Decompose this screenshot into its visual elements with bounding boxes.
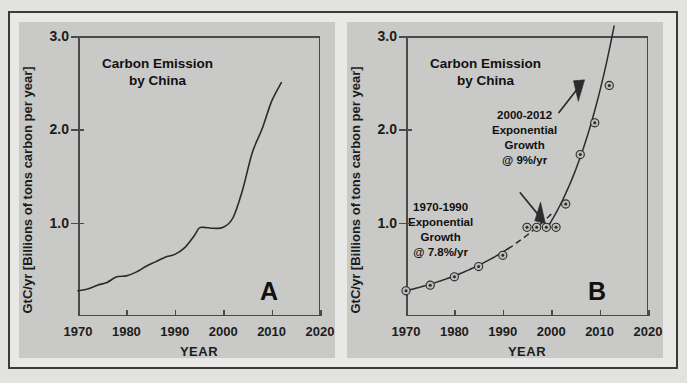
data-point-center-b [453,275,456,278]
data-point-center-b [526,226,529,229]
x-tick [503,310,505,316]
x-axis-title-a: YEAR [180,344,218,359]
data-point-center-b [477,265,480,268]
y-tick [71,36,78,38]
x-tick-label: 1990 [160,325,189,338]
early-exponential-fit-solid-b [406,249,508,291]
chart-panel-b: GtC/yr [Billions of tons carbon per year… [347,22,663,358]
y-tick [399,129,406,131]
x-tick [551,310,553,316]
data-point-center-b [535,226,538,229]
x-tick [272,310,274,316]
x-tick-label: 1970 [64,325,93,338]
y-tick-inner [78,129,84,131]
x-tick [648,310,650,316]
y-tick-inner [78,36,84,38]
x-tick [454,310,456,316]
x-tick [78,310,80,316]
plot-area-b: Carbon Emission by China 2000-2012 Expon… [406,36,648,316]
plot-area-a: Carbon Emission by China A 1.02.03.0 197… [78,36,320,316]
y-tick-label: 3.0 [378,29,397,43]
late-exponential-fit-b [546,26,614,229]
data-point-center-b [405,289,408,292]
chart-panel-a: GtC/yr [Billions of tons carbon per year… [19,22,335,358]
y-tick [399,36,406,38]
y-tick-inner [406,36,412,38]
data-point-center-b [608,84,611,87]
data-point-center-b [593,121,596,124]
x-tick [600,310,602,316]
y-axis-title-a: GtC/yr [Billions of tons carbon per year… [20,66,35,313]
y-axis-title-b: GtC/yr [Billions of tons carbon per year… [348,66,363,313]
data-point-center-b [579,153,582,156]
x-tick-label: 1980 [440,325,469,338]
data-point-center-b [555,226,558,229]
y-tick-label: 1.0 [50,216,69,230]
scanned-page-background: GtC/yr [Billions of tons carbon per year… [0,0,687,383]
x-tick [406,310,408,316]
x-tick-label: 1990 [488,325,517,338]
x-tick [320,310,322,316]
x-tick [126,310,128,316]
x-tick [175,310,177,316]
x-tick-label: 2020 [634,325,663,338]
y-tick-inner [78,223,84,225]
x-axis-title-b: YEAR [508,344,546,359]
y-tick [399,223,406,225]
data-curve-a [78,36,320,316]
y-tick-label: 2.0 [50,122,69,136]
data-point-center-b [501,254,504,257]
y-tick-inner [406,223,412,225]
x-tick-label: 2010 [257,325,286,338]
y-tick [71,129,78,131]
x-tick-label: 1970 [392,325,421,338]
x-tick-label: 1980 [112,325,141,338]
x-tick-label: 2010 [585,325,614,338]
y-tick [71,223,78,225]
page-caption-clipped [10,374,310,383]
x-tick-label: 2000 [537,325,566,338]
figure-outer-frame: GtC/yr [Billions of tons carbon per year… [8,11,678,369]
data-point-center-b [429,284,432,287]
y-tick-inner [406,129,412,131]
emission-curve-a [78,83,281,291]
y-tick-label: 1.0 [378,216,397,230]
y-tick-label: 3.0 [50,29,69,43]
data-markers-b [406,36,648,316]
x-tick-label: 2020 [306,325,335,338]
x-tick-label: 2000 [209,325,238,338]
x-tick [223,310,225,316]
y-tick-label: 2.0 [378,122,397,136]
data-point-center-b [545,226,548,229]
data-point-center-b [564,203,567,206]
